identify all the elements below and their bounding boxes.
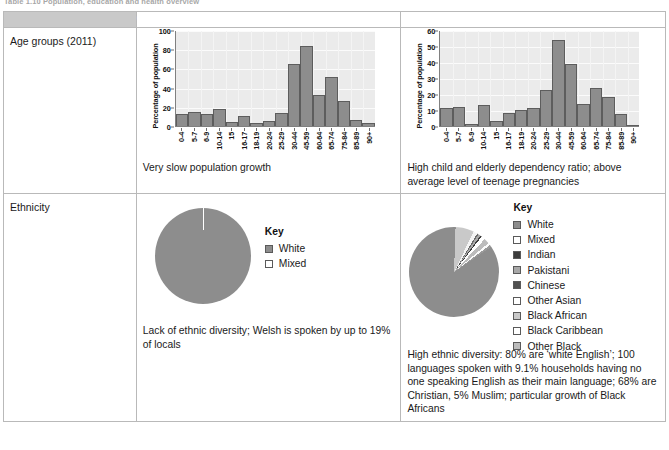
bar-65-74 xyxy=(590,88,602,126)
key-item: Indian xyxy=(513,247,603,262)
key-swatch xyxy=(513,266,521,274)
key-swatch xyxy=(513,297,521,305)
cell-harpurhey-ethnicity: Key WhiteMixedIndianPakistaniChineseOthe… xyxy=(401,194,666,422)
gower-ethnicity-description: Lack of ethnic diversity; Welsh is spoke… xyxy=(137,318,401,356)
x-tick-mark xyxy=(508,128,509,131)
x-tick-label: 75-84 xyxy=(339,132,348,150)
gower-age-description: Very slow population growth xyxy=(137,158,401,180)
gower-key-title: Key xyxy=(265,226,306,237)
x-tick-mark xyxy=(181,128,182,131)
x-tick-mark xyxy=(471,128,472,131)
x-tick-label: 10-14 xyxy=(214,132,223,150)
bar-18-19 xyxy=(515,110,527,126)
bar-90+ xyxy=(362,123,374,126)
x-tick-mark xyxy=(596,128,597,131)
x-tick-label: 20-24 xyxy=(529,132,538,150)
x-tick: 60-64 xyxy=(312,128,325,160)
x-tick: 30-44 xyxy=(287,128,300,160)
x-tick-label: 6-9 xyxy=(202,132,211,142)
x-tick-mark xyxy=(194,128,195,131)
header-harpurhey: Harpurhey xyxy=(401,12,666,28)
bar-10-14 xyxy=(478,105,490,126)
header-gower: Gower xyxy=(136,12,401,28)
key-swatch xyxy=(513,312,521,320)
bar-75-84 xyxy=(602,97,614,126)
bar-45-59 xyxy=(300,46,312,126)
bar-0-4 xyxy=(176,114,188,126)
key-swatch xyxy=(513,327,521,335)
comparison-table: Gower Harpurhey Age groups (2011) Percen… xyxy=(3,11,666,422)
x-tick: 90+ xyxy=(362,128,375,160)
y-tick-label: 20 xyxy=(163,103,171,112)
key-label: Mixed xyxy=(527,234,554,245)
key-label: White xyxy=(279,243,305,254)
x-tick-label: 30-44 xyxy=(289,132,298,150)
x-tick-label: 15 xyxy=(491,132,500,140)
cell-harpurhey-age-groups: Percentage of population01020304050600-4… xyxy=(401,28,666,194)
x-tick-label: 75-84 xyxy=(604,132,613,150)
x-tick-mark xyxy=(244,128,245,131)
bar-75-84 xyxy=(338,101,350,126)
key-label: White xyxy=(527,219,553,230)
x-tick-label: 85-89 xyxy=(616,132,625,150)
x-tick-mark xyxy=(583,128,584,131)
key-item: Mixed xyxy=(513,232,603,247)
x-tick: 20-24 xyxy=(527,128,540,160)
y-tick-mark xyxy=(171,50,174,51)
x-tick: 85-89 xyxy=(614,128,627,160)
bar-90+ xyxy=(627,125,639,126)
bar-85-89 xyxy=(615,114,627,126)
y-tick-mark xyxy=(435,111,438,112)
y-tick-label: 40 xyxy=(427,59,435,68)
x-tick-label: 45-59 xyxy=(302,132,311,150)
x-tick-label: 6-9 xyxy=(466,132,475,142)
table-header-row: Gower Harpurhey xyxy=(4,12,666,28)
bar-60-64 xyxy=(577,104,589,126)
x-tick: 18-19 xyxy=(514,128,527,160)
x-tick-label: 90+ xyxy=(364,132,373,144)
gower-age-bar-chart: Percentage of population0204060801000-45… xyxy=(143,31,381,157)
x-tick: 20-24 xyxy=(262,128,275,160)
y-tick-mark xyxy=(435,127,438,128)
cell-gower-age-groups: Percentage of population0204060801000-45… xyxy=(136,28,401,194)
x-tick-mark xyxy=(306,128,307,131)
key-label: Other Asian xyxy=(527,295,581,306)
figure-caption: Table 1.10 Population, education and hea… xyxy=(4,0,199,6)
x-tick: 16-17 xyxy=(237,128,250,160)
key-label: Pakistani xyxy=(527,265,569,276)
x-tick-label: 16-17 xyxy=(504,132,513,150)
x-tick: 75-84 xyxy=(602,128,615,160)
y-tick-label: 60 xyxy=(427,27,435,36)
x-tick: 10-14 xyxy=(212,128,225,160)
x-tick: 65-74 xyxy=(325,128,338,160)
harpurhey-age-bar-chart: Percentage of population01020304050600-4… xyxy=(407,31,645,157)
key-item: Pakistani xyxy=(513,263,603,278)
bar-45-59 xyxy=(565,64,577,126)
y-tick-mark xyxy=(171,31,174,32)
bar-20-24 xyxy=(263,121,275,126)
harpurhey-age-chart-wrap: Percentage of population01020304050600-4… xyxy=(401,28,665,158)
x-tick: 18-19 xyxy=(250,128,263,160)
x-tick-mark xyxy=(206,128,207,131)
x-tick-mark xyxy=(483,128,484,131)
harpurhey-key: Key WhiteMixedIndianPakistaniChineseOthe… xyxy=(513,202,603,354)
x-tick-label: 90+ xyxy=(629,132,638,144)
harpurhey-ethnicity-description: High ethnic diversity: 80% are ‘white En… xyxy=(401,342,665,421)
x-tick: 60-64 xyxy=(577,128,590,160)
x-tick-label: 18-19 xyxy=(252,132,261,150)
key-swatch xyxy=(513,281,521,289)
x-tick-label: 60-64 xyxy=(314,132,323,150)
x-tick-label: 0-4 xyxy=(441,132,450,142)
key-item: Black Caribbean xyxy=(513,323,603,338)
x-tick-label: 45-59 xyxy=(566,132,575,150)
key-item: White xyxy=(513,217,603,232)
x-tick-label: 25-29 xyxy=(277,132,286,150)
x-tick-mark xyxy=(319,128,320,131)
bar-16-17 xyxy=(238,116,250,126)
gower-age-chart-wrap: Percentage of population0204060801000-45… xyxy=(137,28,401,158)
bar-0-4 xyxy=(440,108,452,126)
x-tick-mark xyxy=(571,128,572,131)
x-tick-label: 10-14 xyxy=(479,132,488,150)
bar-5-7 xyxy=(188,112,200,126)
gower-age-groups-plot-area xyxy=(175,31,375,127)
